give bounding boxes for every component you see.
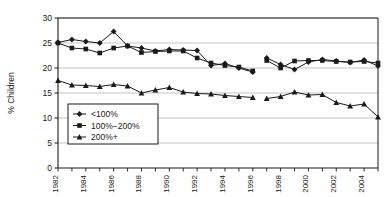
data-point-square xyxy=(167,49,172,54)
y-tick-label: 20 xyxy=(43,63,53,73)
data-point-square xyxy=(348,60,353,65)
data-point-diamond xyxy=(83,39,89,45)
x-tick-label: 1988 xyxy=(134,174,143,192)
data-point-square xyxy=(97,51,102,56)
y-axis-title: % Children xyxy=(6,72,16,114)
legend-label: 100%−200% xyxy=(91,121,140,131)
data-point-square xyxy=(111,46,116,51)
data-point-square xyxy=(320,58,325,63)
chart-figure: 051015202530% Children198219841986198819… xyxy=(0,0,391,197)
data-point-triangle xyxy=(333,100,339,105)
data-point-square xyxy=(306,58,311,63)
x-tick-label: 1986 xyxy=(107,174,116,192)
legend-label: 200%+ xyxy=(91,132,118,142)
data-point-diamond xyxy=(69,37,75,43)
data-point-diamond xyxy=(139,45,145,51)
y-tick-label: 5 xyxy=(47,138,52,148)
data-point-square xyxy=(70,46,75,51)
data-point-square xyxy=(223,63,228,68)
x-tick-label: 2004 xyxy=(357,174,366,192)
data-point-triangle xyxy=(55,78,61,83)
x-tick-label: 1982 xyxy=(51,174,60,192)
x-tick-label: 1998 xyxy=(274,174,283,192)
data-point-square xyxy=(195,56,200,61)
chart-canvas: 051015202530% Children198219841986198819… xyxy=(0,0,391,197)
data-point-square xyxy=(264,58,269,63)
y-tick-label: 0 xyxy=(47,163,52,173)
data-point-triangle xyxy=(166,85,172,90)
x-tick-label: 1984 xyxy=(79,174,88,192)
data-point-square xyxy=(153,49,158,54)
x-tick-label: 1994 xyxy=(218,174,227,192)
data-point-square xyxy=(250,69,255,74)
data-point-square xyxy=(125,44,130,49)
x-tick-label: 1992 xyxy=(190,174,199,192)
data-point-square xyxy=(292,59,297,64)
data-point-square xyxy=(376,61,381,66)
data-point-square xyxy=(237,65,242,70)
data-point-square xyxy=(278,66,283,71)
data-point-triangle xyxy=(292,89,298,94)
y-tick-label: 15 xyxy=(43,88,53,98)
y-tick-label: 30 xyxy=(43,13,53,23)
y-tick-label: 25 xyxy=(43,38,53,48)
data-point-square xyxy=(139,50,144,55)
legend-marker-square xyxy=(77,123,82,128)
data-point-square xyxy=(84,47,89,52)
data-point-square xyxy=(362,59,367,64)
data-point-square xyxy=(181,49,186,54)
x-tick-label: 2000 xyxy=(301,174,310,192)
data-point-triangle xyxy=(361,101,367,106)
data-point-diamond xyxy=(292,67,298,73)
data-point-square xyxy=(334,59,339,64)
x-tick-label: 2002 xyxy=(329,174,338,192)
legend-label: <100% xyxy=(91,109,118,119)
x-tick-label: 1996 xyxy=(246,174,255,192)
data-point-square xyxy=(209,61,214,66)
data-point-square xyxy=(56,41,61,46)
x-tick-label: 1990 xyxy=(162,174,171,192)
y-tick-label: 10 xyxy=(43,113,53,123)
